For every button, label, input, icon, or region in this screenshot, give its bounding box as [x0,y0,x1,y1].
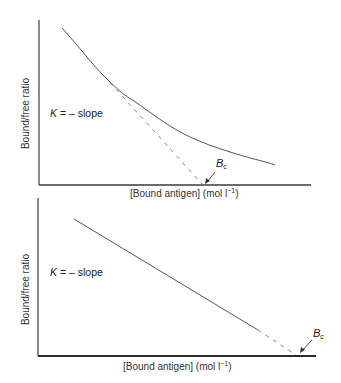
bottom-k-symbol: K [50,266,57,278]
top-tangent-dashed-line [104,76,203,185]
bottom-y-axis-label: Bound/free ratio [20,248,31,332]
bottom-binding-line [74,219,258,330]
top-bc-subscript: c [223,163,227,170]
top-plot-graphics [0,0,341,200]
top-x-axis-label: [Bound antigen] (mol l−1) [130,187,239,199]
panel-top-curved-scatchard: Bound/free ratio K = – slope Bc [Bound a… [0,0,341,200]
top-x-label-close: ) [235,188,238,199]
top-y-axis-label: Bound/free ratio [20,72,31,156]
bottom-x-label-superscript: −1 [220,360,228,367]
bottom-x-label-close: ) [228,361,231,372]
top-k-text: = – slope [57,107,103,119]
top-k-slope-annotation: K = – slope [50,107,103,119]
bottom-bc-symbol: B [313,327,320,339]
bottom-x-label-text: [Bound antigen] (mol l [123,361,220,372]
top-bc-label: Bc [216,157,227,170]
top-binding-curve [62,28,275,165]
bottom-x-axis-label: [Bound antigen] (mol l−1) [123,360,232,372]
bottom-extrapolation-dashed-line [258,330,296,355]
bottom-k-slope-annotation: K = – slope [50,266,103,278]
top-k-symbol: K [50,107,57,119]
bottom-bc-arrow-shaft [302,340,312,351]
bottom-bc-label: Bc [313,327,324,340]
bottom-k-text: = – slope [57,266,103,278]
bottom-bc-arrow-head-icon [300,347,305,353]
top-x-label-text: [Bound antigen] (mol l [130,188,227,199]
bottom-bc-subscript: c [320,333,324,340]
